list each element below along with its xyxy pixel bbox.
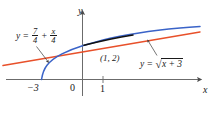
radical-expression: √x + 3 — [155, 58, 183, 70]
fraction-seven-fourths: 7 4 — [32, 27, 38, 46]
tangent-line-equation-label: y = 7 4 + x 4 — [16, 27, 57, 46]
x-tick-label-neg3: −3 — [27, 83, 39, 93]
curve-eq-lead: y — [140, 59, 144, 69]
sqrt-curve-equation-label: y = √x + 3 — [140, 58, 183, 70]
radicand: x + 3 — [161, 58, 183, 69]
leader-line-curve — [149, 42, 158, 56]
tangent-point-label: (1, 2) — [100, 54, 120, 63]
fraction-numerator: 7 — [32, 27, 38, 36]
sqrt-curve-plot — [42, 27, 201, 80]
overlap-segment — [84, 35, 133, 45]
figure-root: y = 7 4 + x 4 y = √x + 3 (1, 2) −3 0 1 y… — [0, 0, 214, 113]
y-axis-label: y — [78, 6, 82, 16]
x-axis-label: x — [203, 85, 207, 95]
tangent-eq-equals: = — [23, 31, 29, 41]
fraction-x-over-four: x 4 — [50, 27, 56, 46]
tangent-eq-plus: + — [41, 31, 47, 41]
x-tick-label-one: 1 — [100, 84, 105, 94]
tangent-eq-lead: y — [16, 31, 20, 41]
origin-label: 0 — [70, 83, 75, 93]
fraction-numerator: x — [50, 27, 56, 36]
curve-eq-equals: = — [147, 59, 153, 69]
fraction-denominator: 4 — [32, 35, 38, 45]
fraction-denominator: 4 — [50, 35, 56, 45]
